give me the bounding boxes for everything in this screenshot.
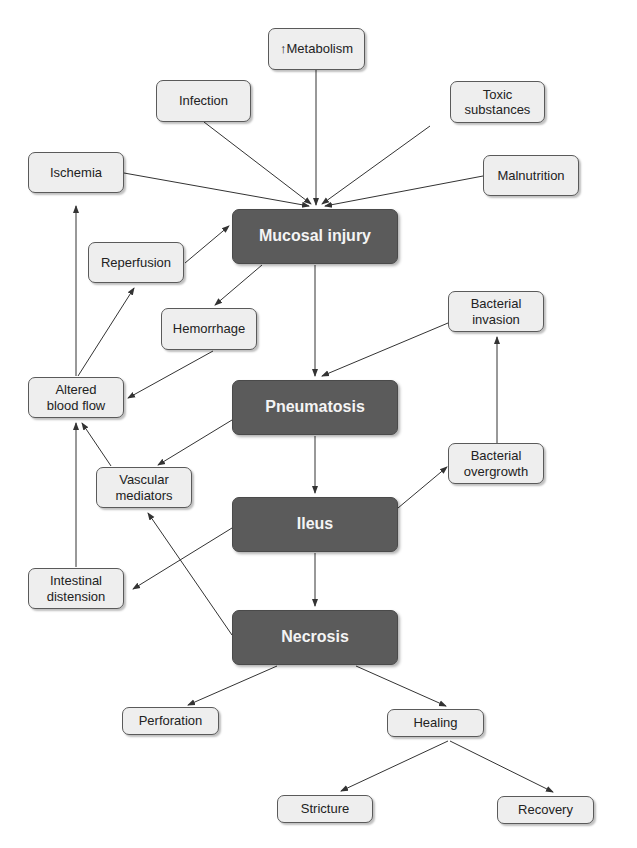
edge-vascular-mediators-to-altered-blood-flow — [82, 423, 111, 466]
node-reperfusion: Reperfusion — [88, 242, 184, 283]
edge-necrosis-to-perforation — [188, 666, 277, 705]
node-perforation: Perforation — [122, 707, 219, 735]
pathogenesis-diagram: ↑Metabolism Infection Toxic substances I… — [0, 0, 637, 848]
node-intestinal-distension: Intestinal distension — [28, 568, 124, 609]
node-metabolism: ↑Metabolism — [268, 28, 365, 70]
edge-malnutrition-to-mucosal-injury — [325, 176, 483, 206]
node-bacterial-overgrowth: Bacterial overgrowth — [448, 443, 544, 484]
edge-ischemia-to-mucosal-injury — [124, 173, 309, 206]
edge-hemorrhage-to-altered-blood-flow — [128, 351, 213, 398]
node-ischemia: Ischemia — [28, 152, 124, 193]
node-ileus: Ileus — [232, 497, 398, 552]
edge-toxic-to-mucosal-injury — [322, 126, 430, 204]
edge-altered-blood-flow-to-reperfusion — [78, 288, 134, 376]
edge-healing-to-recovery — [450, 741, 553, 792]
node-mucosal-injury: Mucosal injury — [232, 209, 398, 264]
edge-ileus-to-intestinal-distension — [133, 528, 232, 589]
node-malnutrition: Malnutrition — [483, 155, 579, 196]
node-toxic-substances: Toxic substances — [450, 81, 545, 123]
node-pneumatosis: Pneumatosis — [232, 380, 398, 435]
edge-reperfusion-to-mucosal-injury — [185, 226, 229, 263]
node-vascular-mediators: Vascular mediators — [96, 467, 192, 508]
edge-infection-to-mucosal-injury — [204, 122, 311, 204]
node-hemorrhage: Hemorrhage — [161, 308, 257, 350]
edge-mucosal-injury-to-hemorrhage — [215, 265, 262, 305]
node-recovery: Recovery — [497, 796, 594, 824]
node-necrosis: Necrosis — [232, 610, 398, 665]
edge-ileus-to-bacterial-overgrowth — [398, 467, 447, 508]
edge-healing-to-stricture — [341, 741, 448, 791]
edge-necrosis-to-healing — [356, 666, 446, 706]
edge-necrosis-to-vascular-mediators — [148, 513, 232, 635]
node-bacterial-invasion: Bacterial invasion — [448, 291, 544, 332]
node-altered-blood-flow: Altered blood flow — [28, 377, 124, 418]
node-healing: Healing — [387, 709, 484, 737]
node-stricture: Stricture — [277, 795, 373, 823]
edge-bacterial-invasion-to-pneumatosis — [322, 323, 448, 376]
edge-pneumatosis-to-vascular-mediators — [158, 420, 232, 465]
node-infection: Infection — [156, 80, 251, 122]
